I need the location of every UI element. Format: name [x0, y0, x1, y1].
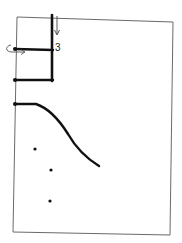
dot-2 — [49, 168, 52, 171]
sketch-canvas — [0, 0, 182, 243]
upper-rung — [15, 49, 53, 50]
dot-1 — [33, 147, 36, 150]
descending-curve — [15, 104, 99, 166]
lower-rung-dot — [13, 78, 17, 82]
step-number-label: 3 — [55, 43, 61, 53]
down-arrow-icon — [55, 16, 60, 35]
dot-3 — [48, 199, 51, 202]
upper-rung-dot — [13, 47, 17, 51]
curve-start-dot — [13, 102, 17, 106]
